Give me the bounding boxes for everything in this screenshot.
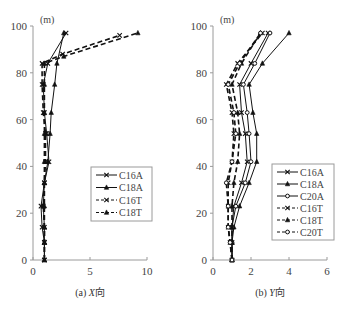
y-tick-label: 20 — [196, 207, 208, 219]
circle-marker-icon — [226, 204, 230, 208]
circle-marker-icon — [286, 194, 290, 198]
circle-marker-icon — [245, 111, 249, 115]
y-tick-label: 40 — [196, 160, 208, 172]
y-tick-label: 80 — [16, 67, 28, 79]
x-tick-label: 6 — [324, 265, 330, 277]
series-line — [42, 35, 120, 260]
triangle-marker-icon — [52, 82, 56, 86]
y-tick-label: 100 — [191, 20, 208, 32]
legend-label: C18A — [300, 179, 325, 190]
y-axis-unit-label: (m) — [40, 14, 54, 26]
legend-label: C16A — [300, 167, 325, 178]
x-marker-icon — [117, 33, 121, 37]
y-tick-label: 100 — [11, 20, 28, 32]
triangle-marker-icon — [255, 159, 259, 163]
triangle-marker-icon — [55, 61, 59, 65]
y-axis-unit-label: (m) — [220, 14, 234, 26]
triangle-marker-icon — [287, 30, 291, 34]
circle-marker-icon — [259, 31, 263, 35]
x-tick-label: 5 — [87, 265, 93, 277]
y-tick-label: 0 — [202, 254, 208, 266]
circle-marker-icon — [238, 62, 242, 66]
circle-marker-icon — [232, 111, 236, 115]
circle-marker-icon — [234, 132, 238, 136]
x-tick-label: 2 — [248, 265, 254, 277]
chart-x-direction: 0204060801000510(m)C16AC18AC16TC18T(a) X… — [11, 14, 154, 299]
legend-label: C20T — [300, 227, 323, 238]
series-line — [44, 33, 137, 260]
x-tick-label: 10 — [142, 265, 154, 277]
circle-marker-icon — [242, 83, 246, 87]
circle-marker-icon — [228, 241, 232, 245]
legend-label: C18T — [300, 215, 323, 226]
triangle-marker-icon — [255, 131, 259, 135]
legend-label: C16T — [119, 195, 142, 206]
legend-label: C16T — [300, 203, 323, 214]
triangle-marker-icon — [236, 159, 240, 163]
circle-marker-icon — [247, 132, 251, 136]
circle-marker-icon — [243, 181, 247, 185]
circle-marker-icon — [234, 204, 238, 208]
x-tick-label: 0 — [30, 265, 36, 277]
legend: C16AC18AC20AC16TC18TC20T — [272, 164, 334, 240]
legend-label: C18A — [119, 182, 144, 193]
circle-marker-icon — [286, 230, 290, 234]
circle-marker-icon — [226, 225, 230, 229]
legend-label: C16A — [119, 170, 144, 181]
circle-marker-icon — [268, 31, 272, 35]
y-tick-label: 60 — [196, 114, 208, 126]
circle-marker-icon — [224, 181, 228, 185]
figure: 0204060801000510(m)C16AC18AC16TC18T(a) X… — [0, 0, 341, 310]
triangle-marker-icon — [136, 30, 140, 34]
series-c20a — [230, 31, 272, 262]
circle-marker-icon — [253, 62, 257, 66]
series-line — [232, 33, 270, 260]
triangle-marker-icon — [232, 180, 236, 184]
circle-marker-icon — [226, 83, 230, 87]
legend-label: C20A — [300, 191, 325, 202]
chart-caption: (a) X向 — [75, 286, 105, 299]
triangle-marker-icon — [49, 110, 53, 114]
y-tick-label: 20 — [16, 207, 28, 219]
triangle-marker-icon — [251, 110, 255, 114]
y-tick-label: 0 — [22, 254, 28, 266]
chart-y-direction: 0204060801000246(m)C16AC18AC20AC16TC18TC… — [191, 14, 335, 299]
circle-marker-icon — [249, 160, 253, 164]
circle-marker-icon — [230, 160, 234, 164]
y-tick-label: 60 — [16, 114, 28, 126]
series-c16t — [40, 33, 122, 262]
y-tick-label: 80 — [196, 67, 208, 79]
x-tick-label: 4 — [286, 265, 292, 277]
x-tick-label: 0 — [210, 265, 216, 277]
chart-caption: (b) Y向 — [255, 286, 285, 299]
legend-label: C18T — [119, 207, 142, 218]
y-tick-label: 40 — [16, 160, 28, 172]
circle-marker-icon — [230, 258, 234, 262]
legend: C16AC18AC16TC18T — [91, 167, 152, 221]
